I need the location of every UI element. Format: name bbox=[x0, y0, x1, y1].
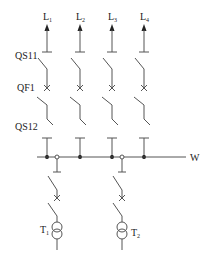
disconnector-qs11-icon bbox=[71, 58, 80, 69]
transformer-branch-1 bbox=[48, 155, 62, 250]
feeder-label-l3: L3 bbox=[108, 12, 117, 23]
arrow-up-icon bbox=[110, 24, 115, 31]
disconnector-qs12-icon bbox=[37, 97, 53, 125]
feeder-label-l2: L2 bbox=[76, 12, 85, 23]
arrow-up-icon bbox=[45, 24, 50, 31]
disconnector-qs12-icon bbox=[102, 97, 118, 125]
qs12-label: QS12 bbox=[15, 122, 38, 132]
feeder-2 bbox=[70, 24, 86, 159]
arrow-up-icon bbox=[78, 24, 83, 31]
feeder-label-l1: L1 bbox=[43, 12, 52, 23]
feeder-label-l4: L4 bbox=[140, 12, 149, 23]
disconnector-icon bbox=[113, 203, 122, 216]
transformer-label-t2: T2 bbox=[131, 228, 140, 239]
disconnector-icon bbox=[48, 203, 57, 216]
disconnector-qs12-icon bbox=[134, 97, 150, 125]
disconnector-qs11-icon bbox=[135, 58, 144, 69]
disconnector-qs11-icon bbox=[38, 58, 47, 69]
transformer-label-t1: T1 bbox=[40, 225, 49, 236]
single-line-diagram: L1 L2 L3 L4 QS11 QF1 QS12 W T1 T2 bbox=[0, 0, 209, 256]
disconnector-icon bbox=[113, 176, 122, 190]
feeder-4 bbox=[134, 24, 150, 159]
open-junction-icon bbox=[55, 155, 59, 159]
open-junction-icon bbox=[120, 155, 124, 159]
disconnector-qs11-icon bbox=[103, 58, 112, 69]
qf1-label: QF1 bbox=[17, 83, 35, 93]
feeder-1 bbox=[37, 24, 53, 159]
disconnector-icon bbox=[48, 176, 57, 190]
qs11-label: QS11 bbox=[15, 51, 37, 61]
feeder-3 bbox=[102, 24, 118, 159]
arrow-up-icon bbox=[142, 24, 147, 31]
transformer-branch-2 bbox=[113, 155, 127, 250]
busbar-label-w: W bbox=[190, 153, 199, 163]
disconnector-qs12-icon bbox=[70, 97, 86, 125]
